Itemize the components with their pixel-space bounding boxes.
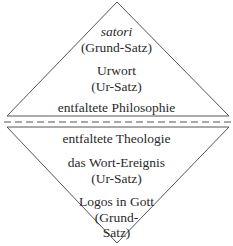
upper-label-entfaltete-philosophie: entfaltete Philosophie: [0, 100, 233, 116]
lower-label-logos-in-gott: Logos in Gott: [0, 194, 233, 210]
upper-label-urwort: Urwort: [0, 63, 233, 79]
upper-label-ur-satz: (Ur-Satz): [0, 79, 233, 95]
lower-label-grund: (Grund-: [0, 210, 233, 226]
upper-label-satori: satori: [0, 24, 233, 40]
lower-label-ur-satz: (Ur-Satz): [0, 171, 233, 187]
upper-label-grund-satz: (Grund-Satz): [0, 40, 233, 56]
lower-label-satz: Satz): [0, 225, 233, 241]
lower-label-entfaltete-theologie: entfaltete Theologie: [0, 131, 233, 147]
upper-triangle: [7, 2, 229, 116]
lower-label-wort-ereignis: das Wort-Ereignis: [0, 155, 233, 171]
